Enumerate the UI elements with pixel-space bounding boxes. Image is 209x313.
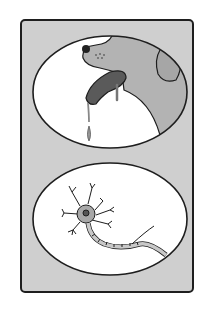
dog-drool-scene [33,30,190,148]
neuron-scene [33,163,187,275]
illustration-canvas [0,0,209,313]
